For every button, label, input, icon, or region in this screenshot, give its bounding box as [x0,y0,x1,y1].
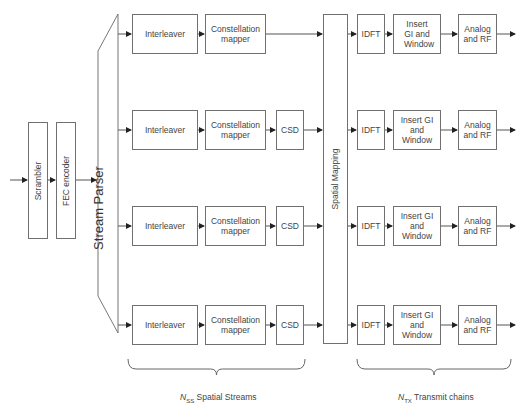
scrambler-label: Scrambler [33,161,43,200]
constellation-mapper-label: Constellation mapper [206,216,265,236]
spatial-streams-label: NSS Spatial Streams [180,392,257,404]
analog-rf-block: Analog and RF [458,305,497,345]
constellation-mapper-block: Constellation mapper [205,110,266,150]
transmit-chains-label: NTX Transmit chains [398,392,474,404]
spatial-mapping-block: Spatial Mapping [323,14,348,344]
idft-label: IDFT [362,125,381,135]
scrambler-block: Scrambler [28,122,48,239]
fec-encoder-label: FEC encoder [61,155,71,205]
analog-rf-label: Analog and RF [461,120,495,140]
csd-block: CSD [276,110,304,150]
constellation-mapper-block: Constellation mapper [205,305,266,345]
interleaver-label: Interleaver [145,29,185,39]
idft-block: IDFT [357,206,385,246]
constellation-mapper-block: Constellation mapper [205,14,266,54]
spatial-mapping-label: Spatial Mapping [331,149,341,210]
brace [128,359,305,375]
idft-label: IDFT [362,221,381,231]
interleaver-block: Interleaver [132,305,198,345]
csd-label: CSD [281,221,299,231]
brace [357,359,511,375]
idft-block: IDFT [357,110,385,150]
idft-block: IDFT [357,14,385,54]
stream-parser-label: Stream Parser [91,166,106,250]
analog-rf-label: Analog and RF [461,216,495,236]
insert-gi-window-block: Insert GI and Window [393,206,441,246]
insert-gi-label: Insert GI and Window [404,19,430,49]
interleaver-block: Interleaver [132,14,198,54]
analog-rf-block: Analog and RF [458,14,497,54]
csd-label: CSD [281,320,299,330]
constellation-mapper-label: Constellation mapper [206,120,265,140]
constellation-mapper-block: Constellation mapper [205,206,266,246]
insert-gi-label: Insert GI and Window [397,115,437,145]
csd-block: CSD [276,206,304,246]
constellation-mapper-label: Constellation mapper [206,24,265,44]
idft-label: IDFT [362,320,381,330]
idft-label: IDFT [362,29,381,39]
interleaver-block: Interleaver [132,206,198,246]
csd-label: CSD [281,125,299,135]
fec-encoder-block: FEC encoder [56,122,76,239]
insert-gi-window-block: Insert GI and Window [393,14,441,54]
analog-rf-block: Analog and RF [458,110,497,150]
interleaver-label: Interleaver [145,320,185,330]
analog-rf-label: Analog and RF [461,24,495,44]
analog-rf-block: Analog and RF [458,206,497,246]
insert-gi-label: Insert GI and Window [397,310,437,340]
insert-gi-window-block: Insert GI and Window [393,305,441,345]
interleaver-label: Interleaver [145,125,185,135]
analog-rf-label: Analog and RF [461,315,495,335]
idft-block: IDFT [357,305,385,345]
constellation-mapper-label: Constellation mapper [206,315,265,335]
csd-block: CSD [276,305,304,345]
interleaver-label: Interleaver [145,221,185,231]
insert-gi-label: Insert GI and Window [397,211,437,241]
insert-gi-window-block: Insert GI and Window [393,110,441,150]
interleaver-block: Interleaver [132,110,198,150]
